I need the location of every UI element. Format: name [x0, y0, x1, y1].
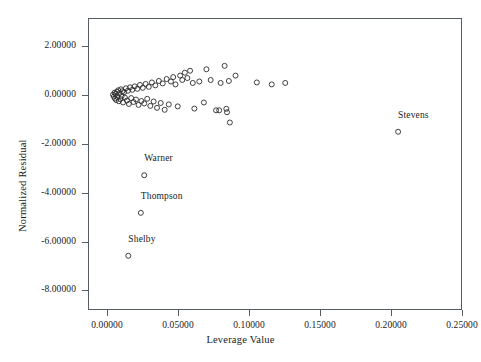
y-tick-label: -4.00000 [0, 187, 76, 197]
y-tick-mark [82, 46, 88, 47]
y-tick-label: 2.00000 [0, 40, 76, 50]
plot-area-frame [88, 18, 462, 310]
x-tick-label: 0.10000 [209, 320, 289, 330]
point-annotation-stevens: Stevens [398, 110, 429, 120]
y-tick-mark [82, 144, 88, 145]
x-tick-label: 0.05000 [138, 320, 218, 330]
x-tick-label: 0.20000 [351, 320, 431, 330]
x-tick-mark [107, 310, 108, 316]
point-annotation-shelby: Shelby [128, 234, 155, 244]
y-tick-label: -8.00000 [0, 284, 76, 294]
point-annotation-thompson: Thompson [141, 191, 183, 201]
x-tick-label: 0.00000 [67, 320, 147, 330]
x-axis-title: Leverage Value [0, 334, 481, 345]
x-tick-mark [320, 310, 321, 316]
point-annotation-warner: Warner [144, 153, 173, 163]
x-tick-label: 0.15000 [280, 320, 360, 330]
y-tick-label: -2.00000 [0, 138, 76, 148]
y-tick-mark [82, 290, 88, 291]
y-axis-title: Normalized Residual [17, 218, 28, 232]
y-tick-label: 0.00000 [0, 89, 76, 99]
x-tick-mark [391, 310, 392, 316]
x-tick-mark [249, 310, 250, 316]
x-tick-mark [462, 310, 463, 316]
y-tick-mark [82, 242, 88, 243]
y-tick-label: -6.00000 [0, 236, 76, 246]
y-tick-mark [82, 193, 88, 194]
scatter-plot-figure: Normalized Residual Leverage Value 2.000… [0, 0, 481, 362]
y-tick-mark [82, 95, 88, 96]
x-tick-label: 0.25000 [422, 320, 481, 330]
x-tick-mark [178, 310, 179, 316]
